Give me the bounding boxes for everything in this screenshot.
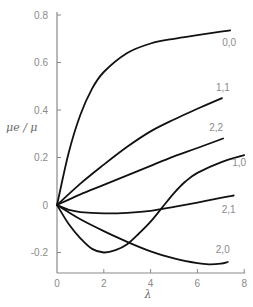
x-tick-label: 8 xyxy=(241,278,247,289)
series-label-1-0: 1,0 xyxy=(232,157,246,168)
chart: 0.80.60.40.20-0.202468 0,01,12,21,02,12,… xyxy=(0,0,253,307)
series-line-2-0 xyxy=(57,205,228,264)
series-label-2-0: 2,0 xyxy=(216,244,230,255)
series-label-0-0: 0,0 xyxy=(222,37,236,48)
y-tick-label: 0.4 xyxy=(34,105,48,116)
y-tick-label: 0.6 xyxy=(34,57,48,68)
x-tick-label: 2 xyxy=(101,278,107,289)
series-label-2-2: 2,2 xyxy=(209,122,223,133)
y-tick-label: 0.2 xyxy=(34,152,48,163)
y-axis-label: μe / μ xyxy=(6,121,38,134)
series-line-0-0 xyxy=(57,30,230,205)
y-tick-label: 0 xyxy=(42,200,48,211)
x-axis-label: λ xyxy=(144,288,152,301)
series-line-1-0 xyxy=(57,155,244,252)
series-label-1-1: 1,1 xyxy=(216,82,230,93)
series-line-2-1 xyxy=(57,196,234,214)
curve-labels: 0,01,12,21,02,12,0 xyxy=(209,37,246,255)
series-label-2-1: 2,1 xyxy=(222,204,236,215)
curves xyxy=(57,30,244,264)
x-tick-label: 6 xyxy=(195,278,201,289)
y-tick-label: -0.2 xyxy=(31,247,49,258)
y-tick-label: 0.8 xyxy=(34,10,48,21)
x-tick-label: 0 xyxy=(54,278,60,289)
series-line-1-1 xyxy=(57,98,222,205)
